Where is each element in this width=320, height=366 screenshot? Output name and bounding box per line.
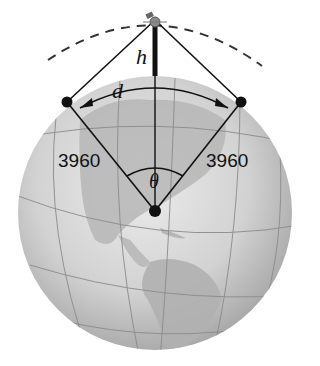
label-angle-theta: θ	[149, 170, 159, 193]
tangent-point-right	[236, 97, 247, 108]
satellite-icon	[143, 11, 167, 27]
tangent-point-left	[62, 97, 73, 108]
earth-center-point	[149, 205, 161, 217]
label-arc-d: d	[112, 78, 123, 104]
label-radius-right: 3960	[206, 150, 248, 172]
label-height-h: h	[136, 44, 147, 70]
label-radius-left: 3960	[58, 150, 100, 172]
